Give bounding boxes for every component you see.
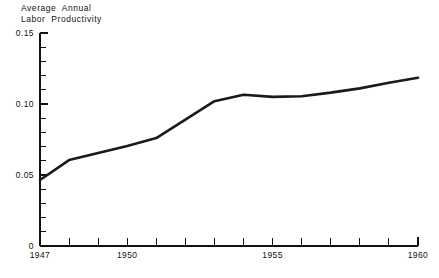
data-series-line — [40, 78, 418, 180]
x-axis-tick-label: 1960 — [398, 250, 438, 260]
y-axis-tick-label: 0.05 — [0, 170, 34, 180]
y-axis-tick-label: 0 — [0, 241, 34, 251]
x-axis-tick-label: 1950 — [107, 250, 147, 260]
axes — [40, 33, 418, 246]
x-axis-ticks — [40, 237, 418, 246]
y-axis-tick-label: 0.10 — [0, 99, 34, 109]
y-axis-tick-label: 0.15 — [0, 28, 34, 38]
plot-area — [0, 0, 439, 278]
y-axis-ticks — [40, 33, 48, 246]
chart-figure: Average AnnualLabor Productivity 0.150.1… — [0, 0, 439, 278]
x-axis-tick-label: 1955 — [253, 250, 293, 260]
x-axis-tick-label: 1947 — [20, 250, 60, 260]
